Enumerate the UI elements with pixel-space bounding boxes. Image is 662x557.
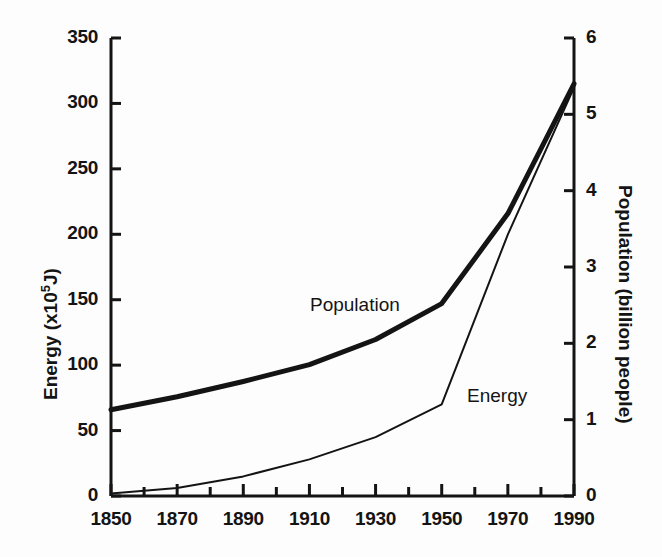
figure-container: 050100150200250300350 0123456 1850187018… xyxy=(0,0,662,557)
x-tick-label: 1930 xyxy=(341,508,411,530)
right-tick-label: 1 xyxy=(586,408,616,430)
right-tick-label: 2 xyxy=(586,331,616,353)
x-tick-label: 1910 xyxy=(274,508,344,530)
x-tick-label: 1870 xyxy=(142,508,212,530)
right-tick-label: 4 xyxy=(586,179,616,201)
left-tick-label: 250 xyxy=(28,157,98,179)
right-tick-label: 6 xyxy=(586,26,616,48)
series-line-population xyxy=(111,84,574,410)
x-tick-label: 1990 xyxy=(539,508,609,530)
exponent-superscript: 5 xyxy=(38,285,53,292)
right-tick-label: 3 xyxy=(586,255,616,277)
data-series-layer xyxy=(111,84,574,494)
right-tick-label: 0 xyxy=(586,484,616,506)
series-annotation-population: Population xyxy=(310,294,400,316)
left-axis-title: Energy (x105J) xyxy=(38,268,62,400)
chart-plot-area xyxy=(0,0,662,557)
right-tick-label: 5 xyxy=(586,102,616,124)
left-tick-label: 350 xyxy=(28,26,98,48)
series-annotation-energy: Energy xyxy=(467,385,527,407)
x-tick-label: 1850 xyxy=(76,508,146,530)
left-tick-label: 0 xyxy=(28,484,98,506)
x-tick-label: 1890 xyxy=(208,508,278,530)
left-tick-label: 300 xyxy=(28,91,98,113)
x-tick-label: 1970 xyxy=(473,508,543,530)
left-tick-label: 50 xyxy=(28,419,98,441)
x-tick-label: 1950 xyxy=(407,508,477,530)
series-line-energy xyxy=(111,88,574,494)
axis-spines xyxy=(111,38,574,496)
right-axis-title: Population (billion people) xyxy=(614,185,636,424)
left-tick-label: 200 xyxy=(28,222,98,244)
x-axis-ticks xyxy=(111,484,574,496)
